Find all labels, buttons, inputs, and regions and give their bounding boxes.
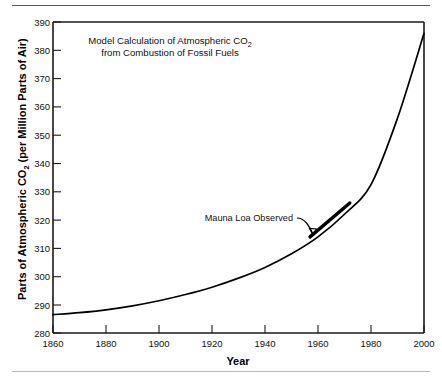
y-tick-label: 360 (34, 101, 50, 112)
plot-frame (53, 22, 424, 333)
x-axis-label: Year (226, 355, 250, 367)
y-tick-label: 350 (34, 130, 50, 141)
mauna-loa-observed-segment (310, 203, 350, 237)
y-tick-label: 280 (34, 328, 50, 339)
y-axis-label: Parts of Atmospheric CO2 (per Million Pa… (16, 38, 31, 300)
y-tick-label: 320 (34, 215, 50, 226)
y-tick-label: 340 (34, 158, 50, 169)
y-axis-ticks (53, 22, 61, 333)
chart-title: Model Calculation of Atmospheric CO2 fro… (88, 35, 251, 58)
y-tick-label: 310 (34, 243, 50, 254)
x-tick-label: 1900 (148, 338, 169, 349)
co2-line-chart: 390 380 370 360 350 340 330 320 310 300 … (0, 0, 442, 378)
x-tick-label: 1940 (254, 338, 275, 349)
x-axis-tick-labels: 1860 1880 1900 1920 1940 1960 1980 2000 (42, 338, 434, 349)
y-axis-label-pre: Parts of Atmospheric CO (16, 169, 28, 300)
svg-text:Parts of Atmospheric CO2 (per: Parts of Atmospheric CO2 (per Million Pa… (16, 38, 31, 300)
model-calculation-curve (53, 33, 424, 314)
x-tick-label: 2000 (413, 338, 434, 349)
x-tick-label: 1980 (360, 338, 381, 349)
y-tick-label: 330 (34, 186, 50, 197)
y-tick-label: 370 (34, 73, 50, 84)
mauna-loa-annotation-label: Mauna Loa Observed (205, 213, 293, 223)
figure-container: 390 380 370 360 350 340 330 320 310 300 … (0, 0, 442, 378)
x-tick-label: 1960 (307, 338, 328, 349)
y-tick-label: 390 (34, 17, 50, 28)
y-tick-label: 290 (34, 300, 50, 311)
chart-title-line2: from Combustion of Fossil Fuels (101, 47, 239, 58)
chart-title-line1: Model Calculation of Atmospheric CO (88, 35, 247, 46)
y-tick-label: 380 (34, 45, 50, 56)
x-tick-label: 1880 (95, 338, 116, 349)
x-tick-label: 1920 (201, 338, 222, 349)
y-axis-tick-labels: 390 380 370 360 350 340 330 320 310 300 … (34, 17, 50, 339)
x-tick-label: 1860 (42, 338, 63, 349)
chart-title-subscript: 2 (248, 40, 252, 49)
y-axis-label-post: (per Million Parts of Air) (16, 38, 28, 166)
x-axis-ticks (53, 325, 424, 333)
y-tick-label: 300 (34, 271, 50, 282)
